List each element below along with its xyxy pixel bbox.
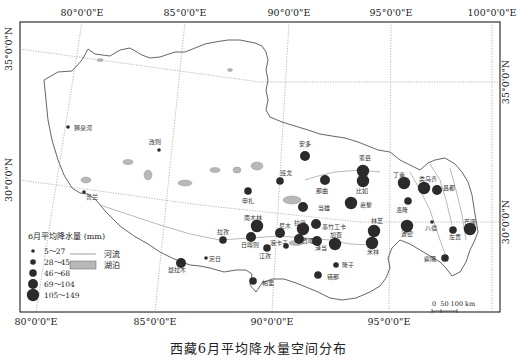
legend-river-label: 河流: [104, 249, 120, 259]
bottom-longitude-label: 80°0'0"E: [15, 316, 58, 327]
station-dot: [314, 271, 322, 279]
station-label: 隆子: [342, 261, 354, 269]
right-latitude-label: 30°0'0"N: [500, 200, 511, 244]
station-marker: 加查: [329, 231, 342, 250]
station-label: 日喀则: [241, 241, 259, 249]
station-label: 泽当: [315, 244, 327, 252]
station-dot: [249, 277, 257, 285]
legend-class-label: 5～27: [44, 247, 66, 256]
station-label: 拉孜: [217, 228, 229, 236]
station-label: 聂拉木: [168, 266, 186, 274]
station-dot: [219, 236, 227, 244]
station-dot: [298, 202, 308, 212]
station-dot: [432, 185, 442, 195]
station-label: 丁青: [393, 171, 405, 179]
station-dot: [418, 182, 430, 194]
station-marker: 芒康: [464, 218, 476, 235]
station-label: 类乌齐: [419, 175, 437, 183]
station-label: 昌都: [443, 184, 455, 192]
station-label: 嘉黎: [360, 201, 372, 209]
station-label: 林芝: [371, 217, 383, 225]
station-dot: [357, 175, 369, 187]
bottom-longitude-label: 85°0'0"E: [134, 316, 177, 327]
station-label: 错那: [327, 273, 339, 281]
top-longitude-label: 80°0'0"E: [61, 7, 104, 18]
legend-class-symbol: [30, 259, 36, 265]
station-dot: [441, 254, 449, 262]
legend-lake-swatch: [70, 261, 96, 269]
top-longitude-label: 95°0'0"E: [370, 7, 413, 18]
legend-lake-label: 湖泊: [104, 260, 120, 270]
station-label: 察隅: [424, 255, 436, 263]
figure-caption: 西藏6月平均降水量空间分布: [0, 338, 517, 357]
station-label: 墨竹工卡: [322, 223, 346, 231]
station-label: 波密: [401, 230, 413, 238]
station-label: 左贡: [449, 233, 461, 241]
station-dot: [244, 187, 252, 195]
station-dot: [251, 220, 263, 232]
station-dot: [311, 219, 321, 229]
station-label: 申扎: [242, 197, 254, 205]
station-label: 洛隆: [396, 206, 408, 214]
station-label: 加查: [330, 231, 342, 239]
station-label: 尼木: [279, 222, 291, 230]
station-label: 安多: [299, 140, 311, 148]
station-label: 米林: [367, 248, 379, 256]
bottom-longitude-label: 95°0'0"E: [368, 316, 411, 327]
station-label: 比如: [356, 187, 368, 195]
station-label: 班戈: [280, 169, 292, 177]
station-dot: [404, 197, 412, 205]
station-label: 索县: [359, 154, 371, 162]
station-dot: [204, 256, 208, 260]
station-label: 南木林: [244, 214, 262, 222]
bottom-longitude-label: 90°0'0"E: [251, 316, 294, 327]
station-label: 定日: [209, 255, 221, 263]
station-label: 江孜: [259, 252, 271, 260]
station-marker: 波密: [401, 220, 413, 238]
station-dot: [345, 197, 357, 209]
station-dot: [320, 175, 330, 185]
legend-class-label: 69～104: [44, 280, 75, 289]
legend-class-symbol: [29, 269, 37, 277]
station-marker: 米林: [366, 237, 379, 256]
station-dot: [368, 225, 380, 237]
station-dot: [329, 238, 341, 250]
legend-class-label: 28～45: [44, 258, 70, 267]
station-label: 拉萨: [294, 219, 306, 227]
station-dot: [157, 148, 161, 152]
station-label: 当雄: [318, 204, 330, 212]
station-label: 帕里: [262, 279, 274, 287]
station-label: 浪卡子: [270, 239, 288, 247]
scale-bar-label: 0 50 100 km: [432, 300, 475, 308]
top-longitude-label: 100°0'0"E: [468, 7, 517, 18]
station-dot: [276, 177, 284, 185]
station-dot: [333, 262, 339, 268]
legend-class-label: 46～68: [44, 269, 70, 278]
right-latitude-label: 35°0'0"N: [500, 60, 511, 104]
legend-class-label: 105～149: [44, 291, 80, 300]
top-longitude-label: 90°0'0"E: [268, 7, 311, 18]
station-label: 那曲: [316, 187, 328, 195]
top-longitude-label: 85°0'0"E: [164, 7, 207, 18]
station-label: 芒康: [464, 218, 476, 225]
legend-class-symbol: [27, 289, 39, 301]
station-dot: [263, 244, 271, 252]
left-latitude-label: 35°0'0"N: [3, 27, 14, 71]
station-dot: [398, 177, 410, 189]
legend-class-symbol: [31, 249, 35, 253]
station-dot: [275, 228, 285, 238]
legend-title: 6月平均降水量 (mm): [28, 231, 105, 241]
station-label: 狮泉河: [74, 124, 92, 132]
station-label: 八宿: [425, 224, 437, 232]
left-latitude-label: 30°0'0"N: [3, 158, 14, 202]
station-label: 普兰: [86, 193, 98, 201]
station-dot: [300, 151, 310, 161]
station-label: 改则: [149, 138, 161, 146]
legend-class-symbol: [28, 279, 38, 289]
station-dot: [66, 125, 70, 129]
